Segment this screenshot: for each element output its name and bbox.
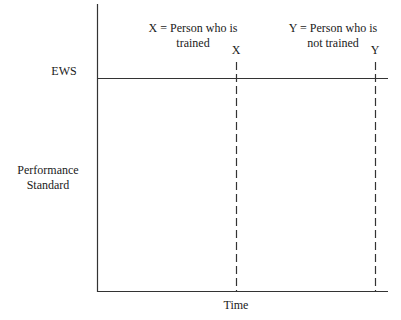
marker-x-label: X <box>229 43 243 58</box>
y-axis-label-line1: Performance <box>8 163 88 178</box>
y-axis-label-line2: Standard <box>8 178 88 193</box>
marker-y-label: Y <box>368 43 382 58</box>
legend-not-trained-line1: Y = Person who is <box>262 21 401 36</box>
x-axis-label: Time <box>216 298 256 313</box>
performance-diagram: X = Person who is trained Y = Person who… <box>0 0 401 320</box>
ews-label: EWS <box>44 64 84 79</box>
y-axis-label: Performance Standard <box>8 163 88 193</box>
legend-trained-line1: X = Person who is <box>122 21 264 36</box>
